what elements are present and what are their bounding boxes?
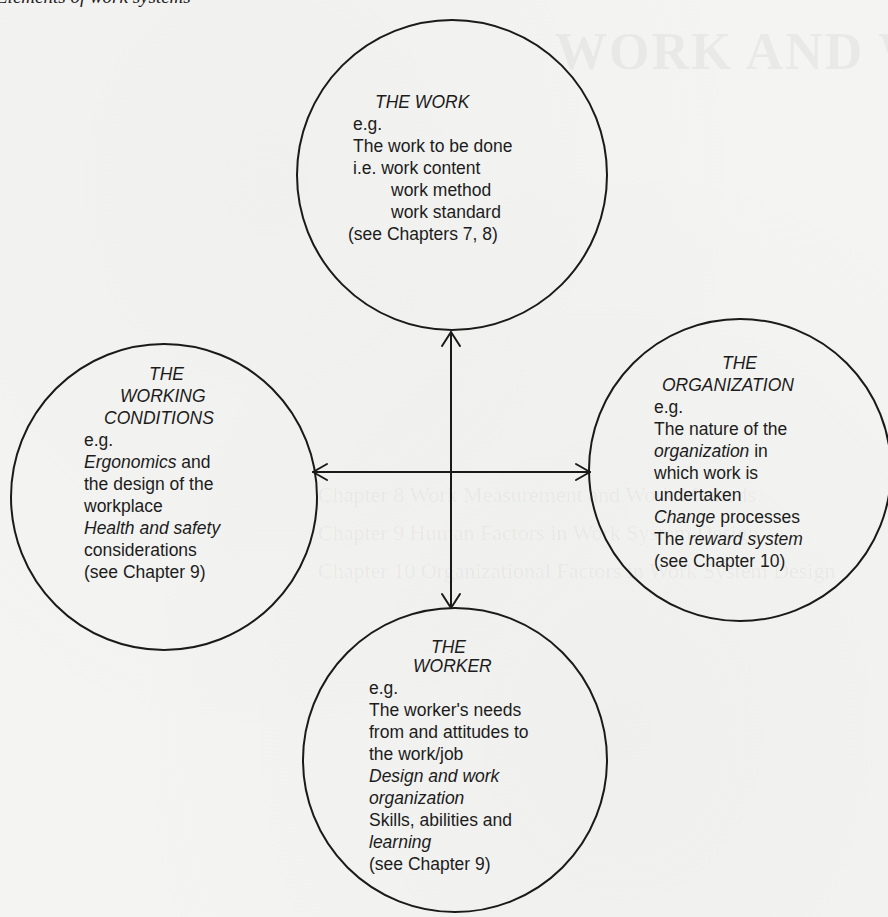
node-line: i.e. work content — [353, 157, 513, 179]
node-line: The work to be done — [353, 135, 513, 157]
node-line: Change processes — [654, 506, 803, 528]
node-line: undertaken — [654, 484, 803, 506]
node-line: organization in — [654, 440, 803, 462]
node-the-work: THE WORK e.g. The work to be done i.e. w… — [353, 91, 513, 245]
node-line: organization — [369, 787, 529, 809]
italic-term: reward system — [689, 529, 803, 549]
node-title: THE WORK — [353, 91, 513, 113]
eg-label: e.g. — [84, 429, 220, 451]
eg-label: e.g. — [654, 396, 803, 418]
node-title: THE — [84, 363, 220, 385]
node-title: ORGANIZATION — [654, 374, 803, 396]
node-line: considerations — [84, 539, 220, 561]
node-line: Design and work — [369, 765, 529, 787]
node-line: the work/job — [369, 743, 529, 765]
chapter-reference: (see Chapter 9) — [84, 561, 220, 583]
node-line: work method — [353, 179, 513, 201]
node-line: which work is — [654, 462, 803, 484]
node-title: WORKER — [369, 655, 529, 677]
node-line: from and attitudes to — [369, 721, 529, 743]
node-the-worker: THE WORKER e.g. The worker's needs from … — [369, 636, 529, 875]
node-title: WORKING — [84, 385, 220, 407]
node-line: the design of the — [84, 473, 220, 495]
node-title: CONDITIONS — [84, 407, 220, 429]
node-title: THE — [654, 352, 803, 374]
node-line: learning — [369, 831, 529, 853]
eg-label: e.g. — [353, 113, 513, 135]
node-line: workplace — [84, 495, 220, 517]
italic-term: Ergonomics — [84, 452, 176, 472]
italic-term: organization — [654, 441, 749, 461]
node-line: Skills, abilities and — [369, 809, 529, 831]
node-line: Health and safety — [84, 517, 220, 539]
node-line: Ergonomics and — [84, 451, 220, 473]
eg-label: e.g. — [369, 677, 529, 699]
node-line: The nature of the — [654, 418, 803, 440]
chapter-reference: (see Chapter 9) — [369, 853, 529, 875]
node-line: The reward system — [654, 528, 803, 550]
node-line: work standard — [353, 201, 513, 223]
italic-term: Change — [654, 507, 715, 527]
node-working-conditions: THE WORKING CONDITIONS e.g. Ergonomics a… — [84, 363, 220, 583]
node-line: The worker's needs — [369, 699, 529, 721]
chapter-reference: (see Chapters 7, 8) — [348, 223, 513, 245]
node-organization: THE ORGANIZATION e.g. The nature of the … — [654, 352, 803, 572]
chapter-reference: (see Chapter 10) — [654, 550, 803, 572]
